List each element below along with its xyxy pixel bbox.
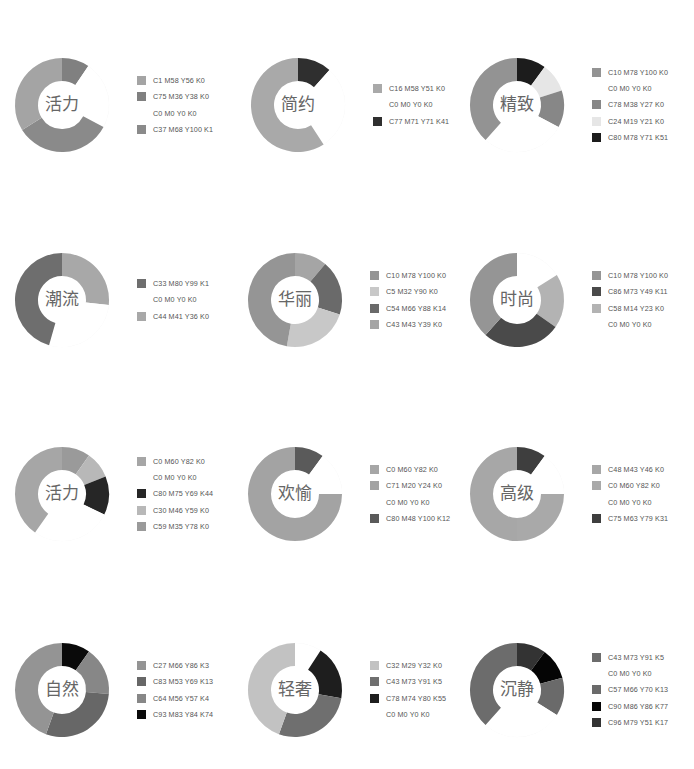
legend: C43 M73 Y91 K5C0 M0 Y0 K0C57 M66 Y70 K13… — [592, 649, 668, 730]
legend-label: C0 M0 Y0 K0 — [608, 669, 652, 678]
legend-swatch — [592, 718, 601, 727]
legend-swatch — [592, 669, 601, 678]
donut-center-title: 沉静 — [487, 679, 547, 699]
donut-chart — [0, 0, 694, 769]
legend-swatch — [592, 653, 601, 662]
legend-swatch — [592, 685, 601, 694]
legend-item: C96 M79 Y51 K17 — [592, 714, 668, 730]
legend-label: C90 M86 Y86 K77 — [608, 702, 668, 711]
legend-item: C0 M0 Y0 K0 — [592, 666, 668, 682]
legend-item: C43 M73 Y91 K5 — [592, 649, 668, 665]
legend-label: C57 M66 Y70 K13 — [608, 685, 668, 694]
legend-item: C57 M66 Y70 K13 — [592, 682, 668, 698]
legend-item: C90 M86 Y86 K77 — [592, 698, 668, 714]
legend-swatch — [592, 702, 601, 711]
legend-label: C96 M79 Y51 K17 — [608, 718, 668, 727]
legend-label: C43 M73 Y91 K5 — [608, 653, 664, 662]
